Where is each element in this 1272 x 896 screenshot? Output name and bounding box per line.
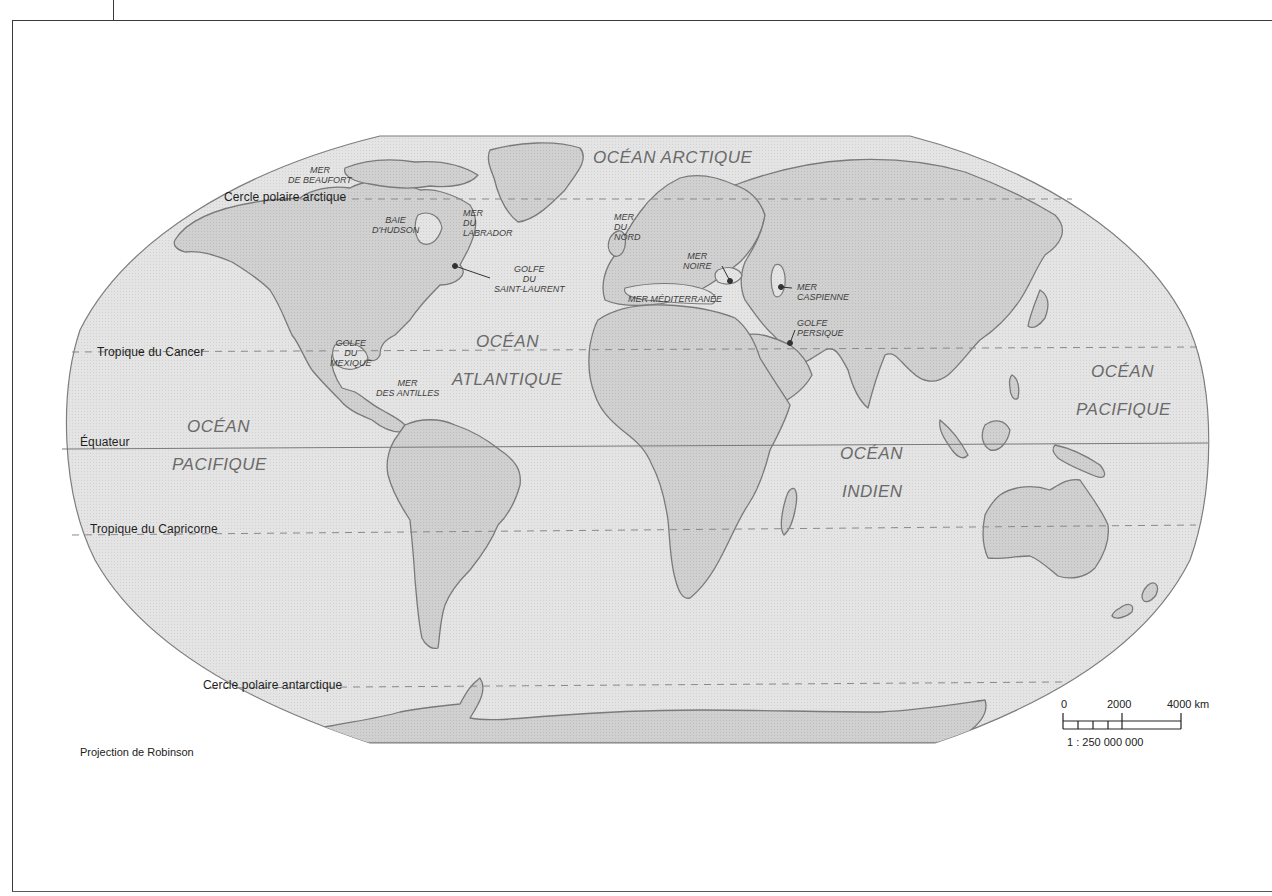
saint-laurent-dot	[453, 264, 458, 269]
scale-tick-2000: 2000	[1107, 698, 1131, 710]
label-golfe-du-mexique: GOLFE DU MEXIQUE	[330, 338, 372, 368]
label-mer-caspienne: MER CASPIENNE	[797, 282, 849, 302]
label-mer-du-nord: MER DU NORD	[614, 212, 641, 242]
label-atlantic-ocean-1: OCÉAN	[476, 332, 539, 352]
scale-ratio: 1 : 250 000 000	[1067, 736, 1143, 748]
label-indian-ocean-2: INDIEN	[842, 482, 903, 502]
label-pacific-west-1: OCÉAN	[187, 417, 250, 437]
caspienne-dot	[779, 285, 784, 290]
label-pacific-west-2: PACIFIQUE	[172, 455, 267, 475]
label-pacific-east-2: PACIFIQUE	[1076, 400, 1171, 420]
label-arctic-circle: Cercle polaire arctique	[224, 190, 346, 204]
label-equator: Équateur	[80, 435, 130, 449]
label-pacific-east-1: OCÉAN	[1091, 362, 1154, 382]
label-antarctic-circle: Cercle polaire antarctique	[203, 678, 342, 692]
label-indian-ocean-1: OCÉAN	[840, 444, 903, 464]
label-mer-de-beaufort: MER DE BEAUFORT	[288, 165, 352, 185]
label-arctic-ocean: OCÉAN ARCTIQUE	[593, 148, 752, 168]
label-mer-des-antilles: MER DES ANTILLES	[376, 378, 439, 398]
label-golfe-persique: GOLFE PERSIQUE	[797, 318, 844, 338]
persique-dot	[788, 341, 793, 346]
label-tropic-of-capricorn: Tropique du Capricorne	[90, 522, 218, 536]
label-atlantic-ocean-2: ATLANTIQUE	[452, 370, 562, 390]
label-baie-d-hudson: BAIE D'HUDSON	[372, 215, 419, 235]
label-golfe-du-saint-laurent: GOLFE DU SAINT-LAURENT	[494, 264, 565, 294]
label-mer-du-labrador: MER DU LABRADOR	[463, 208, 513, 238]
caspian-sea	[771, 264, 785, 296]
label-tropic-of-cancer: Tropique du Cancer	[97, 345, 204, 359]
scale-bar: 0 2000 4000 km 1 : 250 000 000	[1055, 698, 1235, 758]
projection-caption: Projection de Robinson	[80, 746, 194, 758]
noire-dot	[728, 279, 733, 284]
label-mer-mediterranee: MER MÉDITERRANÉE	[628, 294, 722, 304]
label-mer-noire: MER NOIRE	[683, 251, 712, 271]
scale-tick-0: 0	[1061, 698, 1067, 710]
scale-tick-4000: 4000 km	[1167, 698, 1209, 710]
